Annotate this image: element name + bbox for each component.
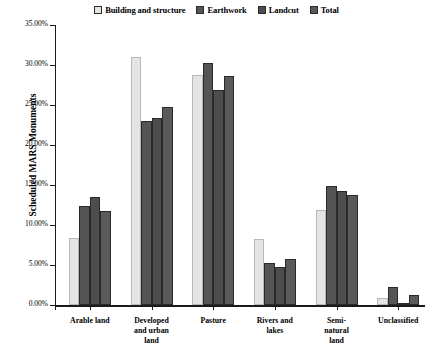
y-axis-tick: 35.00%	[50, 25, 55, 26]
legend-label: Building and structure	[105, 6, 185, 15]
category-label-line: natural	[301, 326, 373, 336]
bar	[141, 121, 152, 305]
bar	[213, 90, 224, 305]
bar-group	[316, 25, 358, 305]
bar	[100, 211, 111, 305]
y-axis-tick-label: 15.00%	[25, 179, 48, 188]
x-axis-tick	[275, 305, 276, 310]
y-axis-tick-label: 25.00%	[25, 99, 48, 108]
y-axis-tick: 25.00%	[50, 105, 55, 106]
legend-entry: Total	[310, 6, 339, 15]
bar	[162, 107, 173, 305]
bar	[69, 238, 80, 305]
bar	[90, 197, 101, 305]
bar	[254, 239, 265, 305]
category-label-line: land	[116, 336, 188, 346]
y-axis-tick-label: 10.00%	[25, 219, 48, 228]
bar	[347, 195, 358, 305]
x-axis-tick-origin	[55, 305, 56, 310]
legend-entry: Building and structure	[94, 6, 185, 15]
bar-group	[254, 25, 296, 305]
bar	[388, 287, 399, 305]
plot-area: 0.00%5.00%10.00%15.00%20.00%25.00%30.00%…	[55, 25, 425, 305]
y-axis-tick-label: 20.00%	[25, 139, 48, 148]
legend-swatch-icon	[196, 6, 204, 14]
legend-label: Total	[321, 6, 339, 15]
y-axis-tick: 10.00%	[50, 225, 55, 226]
y-axis-tick-label: 30.00%	[25, 59, 48, 68]
x-axis-tick	[213, 305, 214, 310]
bar	[192, 75, 203, 305]
bar-group	[131, 25, 173, 305]
x-axis-line	[55, 305, 425, 307]
chart-legend: Building and structureEarthworkLandcutTo…	[0, 2, 433, 18]
legend-swatch-icon	[310, 6, 318, 14]
bar	[398, 303, 409, 305]
y-axis-tick-label: 0.00%	[29, 299, 48, 308]
legend-label: Earthwork	[207, 6, 246, 15]
y-axis-tick: 20.00%	[50, 145, 55, 146]
bar	[377, 298, 388, 305]
bar-group	[377, 25, 419, 305]
bar	[224, 76, 235, 305]
legend-swatch-icon	[258, 6, 266, 14]
category-label-line: Unclassified	[362, 316, 433, 326]
bar-group	[69, 25, 111, 305]
x-axis-tick	[152, 305, 153, 310]
y-axis-line	[55, 25, 56, 306]
bar	[79, 206, 90, 305]
legend-entry: Earthwork	[196, 6, 246, 15]
bar	[264, 263, 275, 305]
legend-label: Landcut	[269, 6, 299, 15]
bar	[337, 191, 348, 305]
category-label-line: land	[301, 336, 373, 346]
y-axis-tick-label: 35.00%	[25, 19, 48, 28]
y-axis-tick: 5.00%	[50, 265, 55, 266]
bar	[203, 63, 214, 305]
bar	[152, 118, 163, 305]
category-label-line: and urban	[116, 326, 188, 336]
x-axis-tick	[337, 305, 338, 310]
x-axis-category-label: Unclassified	[362, 316, 433, 326]
x-axis-tick	[398, 305, 399, 310]
bar	[285, 259, 296, 305]
legend-entry: Landcut	[258, 6, 299, 15]
bar	[131, 57, 142, 305]
y-axis-tick-label: 5.00%	[29, 259, 48, 268]
legend-swatch-icon	[94, 6, 102, 14]
y-axis-tick: 30.00%	[50, 65, 55, 66]
bar-group	[192, 25, 234, 305]
bar	[409, 295, 420, 305]
bar	[326, 186, 337, 305]
y-axis-tick: 15.00%	[50, 185, 55, 186]
x-axis-tick	[90, 305, 91, 310]
bar	[275, 267, 286, 305]
bar	[316, 210, 327, 305]
